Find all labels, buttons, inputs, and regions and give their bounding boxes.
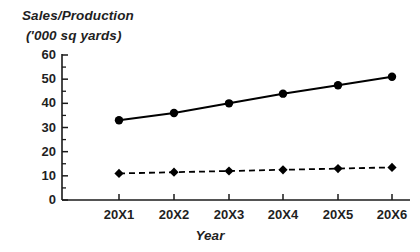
y-tick-label: 50: [20, 71, 56, 86]
series-line: [119, 167, 392, 173]
data-point-marker: [278, 165, 287, 174]
data-point-marker: [115, 116, 123, 124]
data-point-marker: [225, 99, 233, 107]
y-tick-label: 10: [20, 168, 56, 183]
series-line: [119, 77, 392, 121]
data-point-marker: [334, 81, 342, 89]
y-tick-label: 60: [20, 47, 56, 62]
data-point-marker: [114, 169, 123, 178]
x-tick-label: 20X1: [91, 207, 147, 222]
x-tick-label: 20X5: [310, 207, 366, 222]
axis-ticks: [62, 55, 392, 200]
data-series: [114, 73, 396, 178]
y-tick-label: 0: [20, 192, 56, 207]
x-tick-label: 20X4: [255, 207, 311, 222]
x-tick-label: 20X3: [201, 207, 257, 222]
x-tick-label: 20X6: [364, 207, 420, 222]
data-point-marker: [333, 164, 342, 173]
y-tick-label: 30: [20, 120, 56, 135]
data-point-marker: [169, 168, 178, 177]
x-axis-title: Year: [0, 228, 420, 243]
data-point-marker: [387, 163, 396, 172]
y-tick-label: 20: [20, 144, 56, 159]
data-point-marker: [224, 166, 233, 175]
line-chart: Sales/Production ('000 sq yards) 0102030…: [0, 0, 420, 252]
data-point-marker: [279, 89, 287, 97]
x-tick-label: 20X2: [146, 207, 202, 222]
data-point-marker: [170, 109, 178, 117]
data-point-marker: [388, 73, 396, 81]
y-tick-label: 40: [20, 95, 56, 110]
axes: [62, 54, 410, 200]
